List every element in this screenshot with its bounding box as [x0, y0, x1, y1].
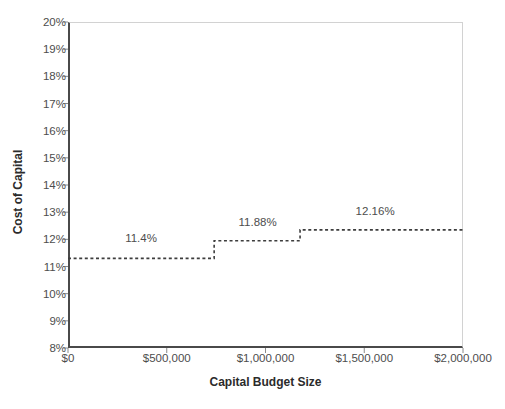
cost-of-capital-chart: 20%19%18%17%16%15%14%13%12%11%10%9%8% $0… [0, 0, 505, 409]
x-axis-tick-label: $1,000,000 [237, 352, 295, 365]
x-axis-tick-labels: $0$500,000$1,000,000$1,500,000$2,000,000 [0, 0, 505, 409]
data-point-label: 12.16% [356, 205, 395, 218]
x-axis-tick-label: $2,000,000 [434, 352, 492, 365]
x-axis-tick-label: $500,000 [143, 352, 191, 365]
x-axis-title: Capital Budget Size [68, 375, 463, 389]
data-point-label: 11.88% [239, 216, 277, 229]
x-axis-tick-label: $0 [62, 352, 75, 365]
y-axis-title: Cost of Capital [11, 122, 25, 262]
x-axis-tick-label: $1,500,000 [335, 352, 393, 365]
data-point-label: 11.4% [125, 232, 157, 245]
